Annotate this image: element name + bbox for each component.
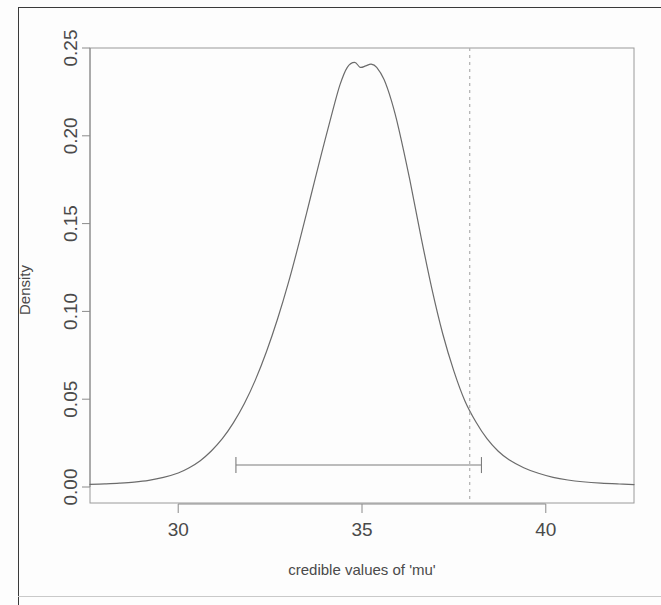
y-axis-tick-label: 0.05 — [60, 381, 81, 418]
y-axis-tick-label: 0.15 — [60, 205, 81, 242]
figure-root: 0.000.050.100.150.200.25 303540 credible… — [0, 0, 661, 605]
x-axis: 303540 — [168, 504, 557, 540]
y-axis-tick-label: 0.20 — [60, 117, 81, 154]
x-axis-title: credible values of 'mu' — [288, 561, 436, 578]
y-axis-tick-label: 0.10 — [60, 293, 81, 330]
density-plot-svg: 0.000.050.100.150.200.25 303540 credible… — [0, 0, 661, 605]
y-axis: 0.000.050.100.150.200.25 — [60, 30, 90, 506]
density-curve-path — [90, 62, 634, 484]
hdi-interval-bar — [236, 457, 482, 473]
y-axis-title: Density — [16, 264, 33, 315]
plot-panel-frame — [90, 48, 634, 503]
x-axis-tick-label: 35 — [351, 519, 372, 540]
y-axis-tick-label: 0.00 — [60, 469, 81, 506]
x-axis-tick-label: 40 — [535, 519, 556, 540]
y-axis-tick-label: 0.25 — [60, 30, 81, 67]
x-axis-tick-label: 30 — [168, 519, 189, 540]
